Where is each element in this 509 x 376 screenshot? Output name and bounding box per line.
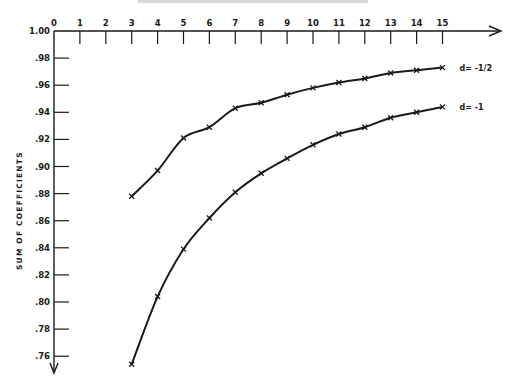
series-d-minus-half: d= -1/2 <box>129 64 492 199</box>
y-tick-label: .78 <box>35 324 50 334</box>
series-group: d= -1/2d= -1 <box>129 64 492 367</box>
chart: 0123456789101112131415 1.00.98.96.94.92.… <box>0 0 509 376</box>
data-point-x-marker-icon <box>233 190 238 195</box>
x-tick-label: 6 <box>206 18 212 28</box>
x-tick-label: 3 <box>129 18 135 28</box>
series-line <box>132 107 443 364</box>
series-label: d= -1 <box>460 103 485 112</box>
x-tick-label: 12 <box>359 18 371 28</box>
y-tick-label: .84 <box>35 243 50 253</box>
y-tick-label: .80 <box>35 297 50 307</box>
y-tick-label: .96 <box>35 80 50 90</box>
y-axis-title: SUM OF COEFFICIENTS <box>15 151 24 270</box>
x-tick-label: 1 <box>77 18 83 28</box>
data-point-x-marker-icon <box>181 136 186 141</box>
x-tick-label: 7 <box>232 18 238 28</box>
x-tick-label: 8 <box>258 18 264 28</box>
x-tick-label: 11 <box>333 18 345 28</box>
y-tick-label: .98 <box>35 53 50 63</box>
y-tick-label: .88 <box>35 189 50 199</box>
x-tick-label: 13 <box>385 18 397 28</box>
y-tick-label: .82 <box>35 270 50 280</box>
y-tick-label: .76 <box>35 351 50 361</box>
y-tick-label: .92 <box>35 134 50 144</box>
cropped-title <box>138 0 368 3</box>
data-point-x-marker-icon <box>129 194 134 199</box>
y-tick-label: .94 <box>35 107 50 117</box>
x-tick-label: 0 <box>51 18 57 28</box>
y-tick-label: .86 <box>35 216 50 226</box>
y-tick-label: 1.00 <box>29 26 50 36</box>
axes <box>50 26 501 373</box>
series-line <box>132 68 443 197</box>
x-tick-label: 9 <box>284 18 290 28</box>
y-tick-label: .90 <box>35 162 50 172</box>
data-point-x-marker-icon <box>155 168 160 173</box>
series-label: d= -1/2 <box>460 64 493 73</box>
x-tick-label: 5 <box>181 18 187 28</box>
x-tick-label: 4 <box>155 18 161 28</box>
x-tick-label: 2 <box>103 18 109 28</box>
x-tick-label: 14 <box>411 18 423 28</box>
x-tick-label: 15 <box>437 18 449 28</box>
data-point-x-marker-icon <box>207 215 212 220</box>
series-d-minus-one: d= -1 <box>129 103 484 367</box>
x-tick-label: 10 <box>307 18 319 28</box>
y-axis-ticks: 1.00.98.96.94.92.90.88.86.84.82.80.78.76 <box>29 26 69 361</box>
